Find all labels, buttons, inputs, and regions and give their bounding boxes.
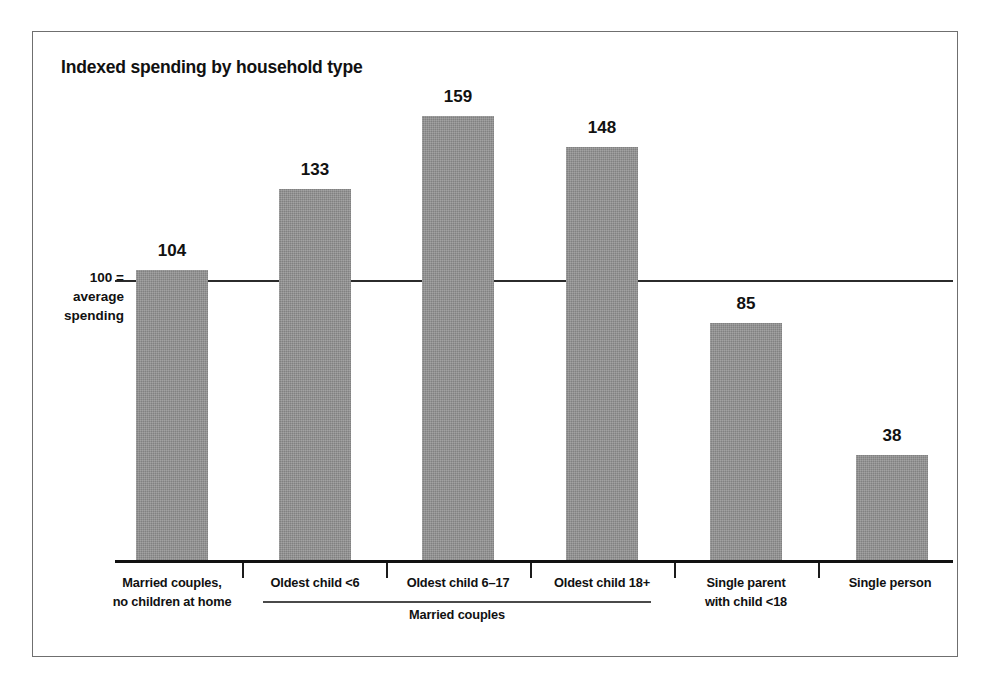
category-label-0-line-2: no children at home xyxy=(100,593,244,612)
bar-value-0: 104 xyxy=(136,241,208,261)
bar-4 xyxy=(710,323,782,561)
category-label-3: Oldest child 18+ xyxy=(530,574,674,593)
bar-value-4: 85 xyxy=(710,294,782,314)
category-label-1: Oldest child <6 xyxy=(243,574,387,593)
x-axis-line xyxy=(115,560,953,563)
bar-5 xyxy=(856,455,928,561)
category-label-2-line-1: Oldest child 6–17 xyxy=(386,574,530,593)
reference-label-line-2: average xyxy=(62,287,124,306)
group-bracket-line xyxy=(263,601,651,603)
bar-value-2: 159 xyxy=(422,87,494,107)
reference-line-100 xyxy=(115,280,953,282)
category-label-4-line-1: Single parent xyxy=(674,574,818,593)
reference-line-label: 100 = average spending xyxy=(62,268,124,325)
reference-label-line-1: 100 = xyxy=(62,268,124,287)
category-label-0: Married couples, no children at home xyxy=(100,574,244,611)
chart-screenshot: Indexed spending by household type 100 =… xyxy=(0,0,986,694)
category-label-5: Single person xyxy=(818,574,962,593)
category-label-3-line-1: Oldest child 18+ xyxy=(530,574,674,593)
bar-value-5: 38 xyxy=(856,426,928,446)
category-label-1-line-1: Oldest child <6 xyxy=(243,574,387,593)
category-label-0-line-1: Married couples, xyxy=(100,574,244,593)
category-label-4-line-2: with child <18 xyxy=(674,593,818,612)
plot-area: 100 = average spending 104 133 159 148 8… xyxy=(0,0,986,694)
category-label-5-line-1: Single person xyxy=(818,574,962,593)
group-bracket-label: Married couples xyxy=(263,607,651,622)
category-label-4: Single parent with child <18 xyxy=(674,574,818,611)
category-label-2: Oldest child 6–17 xyxy=(386,574,530,593)
bar-value-3: 148 xyxy=(566,118,638,138)
bar-value-1: 133 xyxy=(279,160,351,180)
bar-1 xyxy=(279,189,351,561)
reference-label-line-3: spending xyxy=(62,306,124,325)
bar-3 xyxy=(566,147,638,561)
bar-0 xyxy=(136,270,208,561)
bar-2 xyxy=(422,116,494,561)
